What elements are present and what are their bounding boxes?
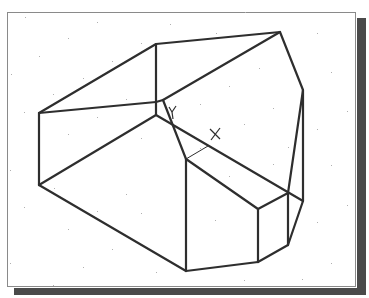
construction-line — [186, 146, 208, 159]
grid-dots — [10, 12, 348, 286]
cursor-cross-icon — [210, 128, 220, 140]
wireframe-drawing[interactable] — [0, 0, 369, 298]
wireframe-edges — [39, 32, 303, 271]
